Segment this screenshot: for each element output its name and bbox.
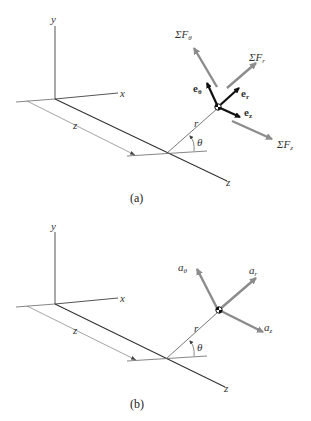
z-dim-ext-start-a	[16, 99, 55, 102]
unit-vector-z-label: ez	[244, 107, 252, 120]
radial-line-a	[167, 108, 218, 153]
accel-z-label: az	[264, 322, 272, 335]
accel-r-label: ar	[249, 265, 257, 278]
z-dim-line-b	[27, 306, 136, 360]
r-label-b: r	[194, 323, 198, 334]
force-theta-label: ΣFθ	[175, 29, 192, 42]
force-r-label: ΣFr	[249, 52, 265, 65]
x-axis-a	[55, 93, 118, 99]
force-z-label: ΣFz	[277, 139, 293, 152]
particle-b	[216, 307, 222, 313]
z-dim-line-a	[27, 101, 135, 155]
y-axis-label-b: y	[51, 221, 56, 232]
unit-vector-theta-label: eθ	[193, 83, 202, 96]
accel-r-arrow	[220, 278, 256, 309]
y-axis-label-a: y	[51, 14, 56, 25]
theta-label-a: θ	[197, 137, 202, 148]
accel-z-arrow	[221, 311, 263, 332]
x-axis-label-b: x	[120, 293, 125, 304]
figure-b	[16, 232, 263, 387]
unit-vector-r	[218, 88, 239, 107]
caption-b: (b)	[130, 398, 144, 410]
unit-vector-r-label: er	[241, 88, 249, 101]
theta-arc-b	[190, 341, 194, 356]
theta-arc-a	[190, 136, 194, 151]
z-dim-ext-start-b	[16, 304, 55, 307]
z-dim-label-a: z	[73, 120, 77, 131]
particle-a	[215, 104, 221, 110]
caption-a: (a)	[130, 192, 143, 204]
z-axis-label-a: z	[226, 177, 230, 188]
force-r-arrow	[227, 63, 256, 88]
theta-label-b: θ	[197, 342, 202, 353]
accel-theta-arrow	[197, 269, 218, 310]
ref-line-b	[127, 356, 207, 361]
accel-theta-label: aθ	[178, 262, 187, 275]
figure-a	[16, 26, 272, 181]
r-label-a: r	[194, 118, 198, 129]
z-dim-label-b: z	[73, 325, 77, 336]
radial-line-b	[167, 312, 218, 358]
x-axis-label-a: x	[120, 88, 125, 99]
ref-line-a	[127, 151, 207, 156]
z-axis-label-b: z	[224, 383, 228, 394]
force-z-arrow	[232, 121, 272, 139]
x-axis-b	[55, 298, 118, 304]
